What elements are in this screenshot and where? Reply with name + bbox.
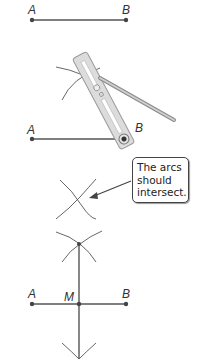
point-m-label: M: [64, 291, 74, 303]
point-a-label: A: [27, 124, 35, 136]
callout-line-1: The arcs: [137, 161, 184, 174]
callout-line-3: intersect.: [137, 186, 184, 199]
construction-figure: A B A B The arcs should intersect. A M B: [0, 0, 201, 359]
callout-line-2: should: [137, 174, 184, 187]
step-1-segment: [30, 18, 128, 22]
point-b-label: B: [122, 288, 130, 300]
compass-icon: [72, 51, 134, 149]
step-3-arcs: [56, 179, 131, 219]
point-a-label: A: [28, 288, 36, 300]
point-b-label: B: [135, 122, 143, 134]
point-b-label: B: [122, 4, 130, 16]
callout-box: The arcs should intersect.: [132, 157, 189, 203]
point-a-label: A: [28, 4, 36, 16]
step-4-bisector: [30, 231, 128, 359]
step-2-construction: [30, 51, 174, 149]
